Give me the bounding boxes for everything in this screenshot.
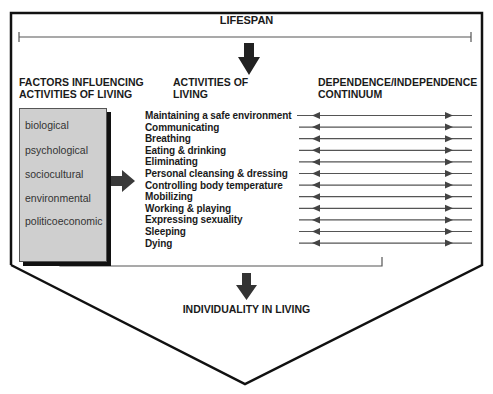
activities-heading: ACTIVITIES OF LIVING: [173, 76, 248, 100]
right-arrowhead-icon: [445, 228, 453, 235]
continuum-line: [299, 147, 472, 154]
down-arrow-icon: [238, 43, 260, 75]
left-arrowhead-icon: [312, 158, 320, 165]
heading-line: ACTIVITIES OF: [173, 76, 248, 88]
continuum-line: [299, 135, 472, 142]
left-arrowhead-icon: [312, 135, 320, 142]
right-arrowhead-icon: [445, 124, 453, 131]
continuum-heading: DEPENDENCE/INDEPENDENCE CONTINUUM: [318, 76, 477, 100]
factor-item: sociocultural: [25, 168, 83, 180]
continuum-line: [299, 240, 472, 247]
continuum-line: [297, 112, 472, 119]
right-arrowhead-icon: [445, 182, 453, 189]
activity-item: Controlling body temperature: [145, 180, 291, 192]
right-arrowhead-icon: [445, 205, 453, 212]
factor-item: politicoeconomic: [25, 215, 103, 227]
left-arrowhead-icon: [312, 205, 320, 212]
continuum-lines: [297, 112, 472, 247]
left-arrowhead-icon: [312, 193, 320, 200]
continuum-line: [299, 158, 472, 165]
activity-item: Eating & drinking: [145, 145, 291, 157]
heading-line: ACTIVITIES OF LIVING: [19, 88, 144, 100]
heading-line: CONTINUUM: [318, 88, 477, 100]
activity-item: Eliminating: [145, 156, 291, 168]
continuum-line: [299, 170, 472, 177]
right-arrow-icon: [111, 170, 135, 192]
factor-item: environmental: [25, 192, 91, 204]
factors-heading: FACTORS INFLUENCING ACTIVITIES OF LIVING: [19, 76, 144, 100]
activity-item: Dying: [145, 238, 291, 250]
left-arrowhead-icon: [312, 124, 320, 131]
lifespan-line: [19, 32, 471, 42]
left-arrowhead-icon: [312, 182, 320, 189]
continuum-line: [299, 193, 472, 200]
continuum-line: [299, 216, 472, 223]
right-arrowhead-icon: [445, 193, 453, 200]
activity-item: Mobilizing: [145, 191, 291, 203]
right-arrowhead-icon: [445, 170, 453, 177]
activity-item: Communicating: [145, 122, 291, 134]
activity-item: Working & playing: [145, 203, 291, 215]
activities-list: Maintaining a safe environment Communica…: [145, 110, 291, 249]
left-arrowhead-icon: [312, 216, 320, 223]
left-arrowhead-icon: [312, 112, 320, 119]
right-arrowhead-icon: [445, 158, 453, 165]
activity-item: Expressing sexuality: [145, 214, 291, 226]
factors-box: biological psychological sociocultural e…: [19, 108, 107, 262]
left-arrowhead-icon: [312, 228, 320, 235]
heading-line: FACTORS INFLUENCING: [19, 76, 144, 88]
left-arrowhead-icon: [312, 170, 320, 177]
continuum-line: [299, 205, 472, 212]
activity-item: Personal cleansing & dressing: [145, 168, 291, 180]
activity-item: Maintaining a safe environment: [145, 110, 291, 122]
down-arrow-icon: [236, 273, 257, 300]
left-arrowhead-icon: [312, 147, 320, 154]
right-arrowhead-icon: [445, 135, 453, 142]
activity-item: Sleeping: [145, 226, 291, 238]
left-arrowhead-icon: [312, 240, 320, 247]
heading-line: LIVING: [173, 88, 248, 100]
activity-item: Breathing: [145, 133, 291, 145]
factor-item: psychological: [25, 144, 88, 156]
factor-item: biological: [25, 119, 69, 131]
activities-bracket: [60, 257, 382, 266]
continuum-line: [299, 182, 472, 189]
continuum-line: [299, 228, 472, 235]
right-arrowhead-icon: [445, 216, 453, 223]
continuum-line: [299, 124, 472, 131]
right-arrowhead-icon: [445, 112, 453, 119]
outcome-label: INDIVIDUALITY IN LIVING: [0, 303, 493, 315]
lifespan-label: LIFESPAN: [0, 14, 493, 26]
right-arrowhead-icon: [445, 240, 453, 247]
heading-line: DEPENDENCE/INDEPENDENCE: [318, 76, 477, 88]
right-arrowhead-icon: [445, 147, 453, 154]
